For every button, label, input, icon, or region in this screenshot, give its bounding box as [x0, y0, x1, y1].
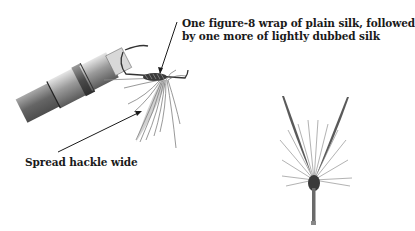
- arrowhead-silk-wrap: [158, 67, 163, 74]
- silk-wrap: [143, 73, 167, 81]
- silk-wrap-annotation-line2: by one more of lightly dubbed silk: [182, 30, 415, 43]
- hackle-fibers: [124, 70, 186, 148]
- leader-line-hackle: [58, 112, 140, 152]
- vise-jaws: [14, 43, 134, 125]
- arrowhead-hackle: [135, 111, 142, 116]
- hackle-annotation: Spread hackle wide: [25, 156, 138, 169]
- finished-spider-fly: [280, 96, 352, 225]
- silk-wrap-annotation: One figure-8 wrap of plain silk, followe…: [182, 17, 415, 43]
- silk-wrap-annotation-line1: One figure-8 wrap of plain silk, followe…: [182, 17, 415, 30]
- leader-line-silk-wrap: [160, 22, 177, 73]
